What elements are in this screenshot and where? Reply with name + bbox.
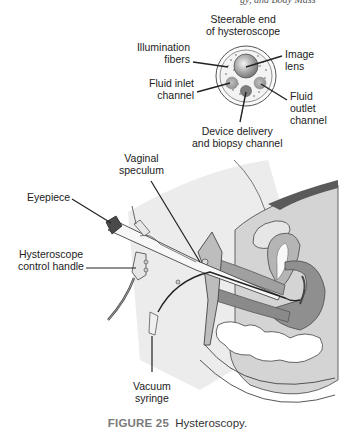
label-line: speculum bbox=[119, 164, 164, 176]
label-line: lens bbox=[285, 60, 314, 72]
label-line: Vaginal bbox=[119, 152, 164, 164]
label-hysteroscope-control-handle: Hysteroscope control handle bbox=[18, 248, 84, 272]
label-line: outlet bbox=[290, 102, 327, 114]
label-vacuum-syringe: Vacuum syringe bbox=[133, 380, 171, 404]
label-fluid-inlet-channel: Fluid inlet channel bbox=[132, 77, 194, 101]
figure-title: Hysteroscopy. bbox=[175, 417, 247, 429]
label-line: channel bbox=[132, 89, 194, 101]
inset-title-line1: Steerable end bbox=[206, 13, 280, 25]
label-line: channel bbox=[290, 114, 327, 126]
label-line: syringe bbox=[133, 392, 171, 404]
label-line: Illumination bbox=[132, 41, 190, 53]
hysteroscope-tip-cross-section bbox=[193, 46, 287, 122]
label-image-lens: Image lens bbox=[285, 48, 314, 72]
label-line: Eyepiece bbox=[27, 191, 70, 203]
label-line: Fluid inlet bbox=[132, 77, 194, 89]
label-illumination-fibers: Illumination fibers bbox=[132, 41, 190, 65]
label-line: Hysteroscope bbox=[18, 248, 84, 260]
label-line: Image bbox=[285, 48, 314, 60]
label-line: Vacuum bbox=[133, 380, 171, 392]
label-line: Fluid bbox=[290, 90, 327, 102]
figure-caption: FIGURE 25 Hysteroscopy. bbox=[0, 417, 355, 429]
figure-number: FIGURE 25 bbox=[108, 417, 169, 429]
label-eyepiece: Eyepiece bbox=[27, 191, 70, 203]
label-line: and biopsy channel bbox=[192, 137, 283, 149]
label-line: control handle bbox=[18, 260, 84, 272]
label-line: Device delivery bbox=[192, 125, 283, 137]
label-fluid-outlet-channel: Fluid outlet channel bbox=[290, 90, 327, 126]
inset-title-line2: of hysteroscope bbox=[206, 25, 280, 37]
label-line: fibers bbox=[132, 53, 190, 65]
inset-title: Steerable end of hysteroscope bbox=[206, 13, 280, 37]
label-vaginal-speculum: Vaginal speculum bbox=[119, 152, 164, 176]
label-device-delivery-channel: Device delivery and biopsy channel bbox=[192, 125, 283, 149]
